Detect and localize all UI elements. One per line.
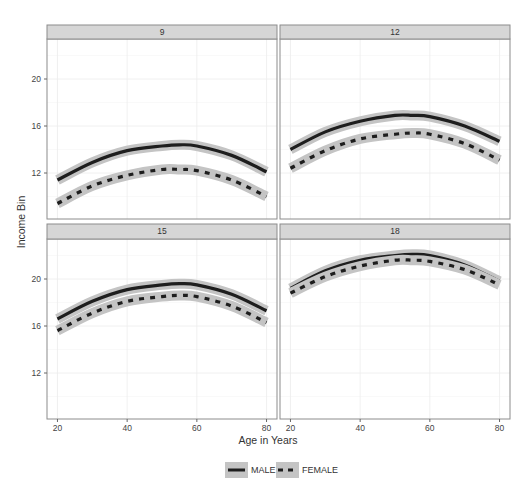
legend-label-male: MALE [251, 465, 276, 475]
plot-area [47, 239, 277, 419]
strip-label: 12 [390, 27, 400, 37]
legend-label-female: FEMALE [302, 465, 338, 475]
x-tick-label: 20 [53, 423, 63, 433]
x-tick-label: 80 [262, 423, 272, 433]
x-tick-label: 40 [355, 423, 365, 433]
x-axis-title: Age in Years [239, 434, 298, 446]
legend-item-female: FEMALE [276, 462, 338, 478]
y-tick-label: 12 [32, 368, 42, 378]
y-tick-label: 16 [32, 321, 42, 331]
x-tick-label: 60 [192, 423, 202, 433]
x-tick-label: 80 [495, 423, 505, 433]
y-tick-label: 20 [32, 74, 42, 84]
strip-label: 9 [160, 27, 165, 37]
panel-15: 1512162020406080 [32, 224, 277, 433]
y-tick-label: 16 [32, 121, 42, 131]
panel-12: 12 [280, 25, 510, 219]
strip-label: 18 [390, 226, 400, 236]
legend-item-male: MALE [225, 462, 276, 478]
legend: MALE FEMALE [225, 462, 338, 478]
x-tick-label: 60 [425, 423, 435, 433]
y-tick-label: 12 [32, 168, 42, 178]
panels: 91216201215121620204060801820406080 [32, 25, 510, 433]
x-tick-label: 20 [286, 423, 296, 433]
panel-18: 1820406080 [280, 224, 510, 433]
panel-9: 9121620 [32, 25, 277, 219]
faceted-line-chart: 91216201215121620204060801820406080 Age … [0, 0, 531, 502]
strip-label: 15 [157, 226, 167, 236]
y-axis-title: Income Bin [15, 196, 27, 249]
x-tick-label: 40 [122, 423, 132, 433]
y-tick-label: 20 [32, 274, 42, 284]
